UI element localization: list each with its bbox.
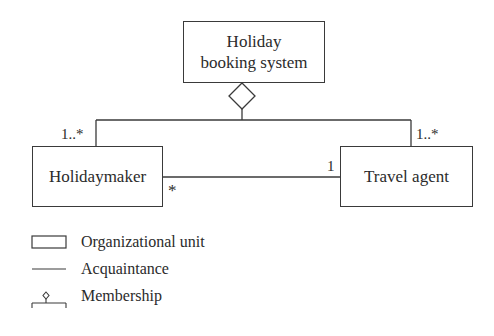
multiplicity-travel-agent-acquaintance: 1 <box>327 158 335 174</box>
rectangle-icon <box>32 236 66 248</box>
multiplicity-travel-agent-membership: 1..* <box>416 126 439 142</box>
node-label: Holidaymaker <box>49 166 146 187</box>
legend-label-acquaintance: Acquaintance <box>81 260 169 278</box>
node-title-line-2: booking system <box>200 52 307 73</box>
multiplicity-holidaymaker-acquaintance: * <box>168 183 177 199</box>
node-holidaymaker: Holidaymaker <box>32 146 163 207</box>
membership-legend-icon <box>32 292 66 308</box>
node-title-line-1: Holiday <box>227 31 282 52</box>
legend-label-membership: Membership <box>81 287 162 305</box>
legend-label-organizational-unit: Organizational unit <box>81 233 205 251</box>
multiplicity-holidaymaker-membership: 1..* <box>61 126 84 142</box>
node-travel-agent: Travel agent <box>340 146 473 207</box>
node-label: Travel agent <box>364 166 449 187</box>
node-holiday-booking-system: Holiday booking system <box>183 21 325 83</box>
diagram-canvas: Holiday booking system Holidaymaker Trav… <box>0 0 494 336</box>
membership-diamond-icon <box>229 83 255 109</box>
